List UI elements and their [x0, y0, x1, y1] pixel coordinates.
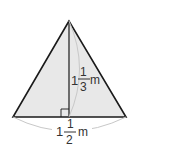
height-label-numerator: 1: [80, 65, 87, 79]
base-label: 1 1 2 m: [52, 117, 92, 150]
height-label-whole: 1: [71, 73, 78, 88]
base-label-denominator: 2: [66, 133, 73, 147]
base-label-numerator: 1: [67, 117, 74, 131]
height-label: 1 1 3 m: [71, 64, 103, 94]
height-label-denominator: 3: [80, 80, 87, 94]
base-label-whole: 1: [56, 124, 63, 139]
base-label-unit: m: [78, 125, 88, 139]
triangle-diagram: 1 1 3 m 1 1 2 m: [0, 0, 176, 167]
height-label-unit: m: [90, 73, 100, 87]
